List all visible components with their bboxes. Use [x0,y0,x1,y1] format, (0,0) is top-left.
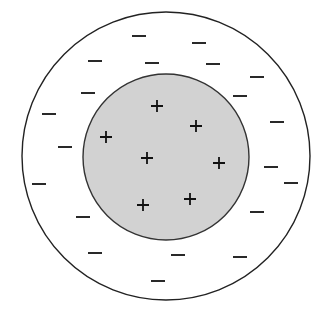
inner-sphere-circle [83,74,249,240]
charge-distribution-diagram [0,0,333,310]
